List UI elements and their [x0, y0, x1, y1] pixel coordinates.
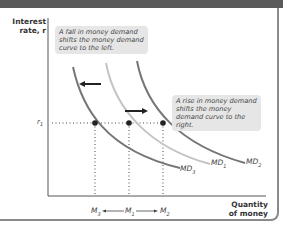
point-m3-r1 — [92, 120, 98, 126]
m1-tick-label: M1 — [125, 206, 135, 217]
md3-label: MD3 — [180, 164, 195, 175]
fall-annotation: A fall in money demand shifts the money … — [55, 26, 148, 54]
r1-tick-label: r1 — [37, 118, 43, 127]
m3-sub: 3 — [97, 211, 100, 217]
x-axis-label-line2: of money — [228, 209, 268, 218]
y-axis-label-line1: Interest — [8, 17, 46, 26]
m1-to-m3-arrowhead — [102, 210, 106, 213]
md2-text: MD — [246, 157, 258, 166]
m1-to-m2-arrowhead — [154, 210, 158, 213]
m2-tick-label: M2 — [160, 206, 170, 217]
md3-sub: 3 — [192, 169, 195, 175]
r1-sub: 1 — [40, 121, 43, 127]
m1-sub: 1 — [131, 211, 134, 217]
shift-right-arrowhead — [142, 108, 148, 114]
m2-sub: 2 — [166, 211, 169, 217]
md1-sub: 1 — [223, 163, 226, 169]
point-m2-r1 — [160, 120, 166, 126]
md3-text: MD — [180, 164, 192, 173]
md1-text: MD — [211, 158, 223, 167]
m3-tick-label: M3 — [91, 206, 101, 217]
shift-left-arrowhead — [79, 81, 85, 87]
md2-sub: 2 — [258, 162, 261, 168]
x-axis-label: Quantity of money — [228, 200, 268, 218]
rise-annotation: A rise in money demand shifts the money … — [172, 95, 261, 131]
y-axis-label-line2: rate, r — [8, 26, 46, 35]
point-m1-r1 — [126, 120, 132, 126]
md1-label: MD1 — [211, 158, 226, 169]
md2-label: MD2 — [246, 157, 261, 168]
x-axis-label-line1: Quantity — [228, 200, 268, 209]
y-axis-label: Interest rate, r — [8, 17, 46, 35]
